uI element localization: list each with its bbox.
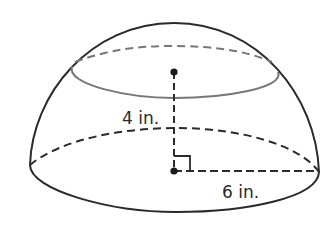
radius-label: 6 in. xyxy=(222,182,259,202)
height-label: 4 in. xyxy=(122,108,159,128)
top-center-point xyxy=(170,68,177,75)
base-center-point xyxy=(170,167,177,174)
hemisphere-diagram: 4 in. 6 in. xyxy=(0,0,333,227)
cross-section-back-arc-dashed xyxy=(75,46,272,62)
